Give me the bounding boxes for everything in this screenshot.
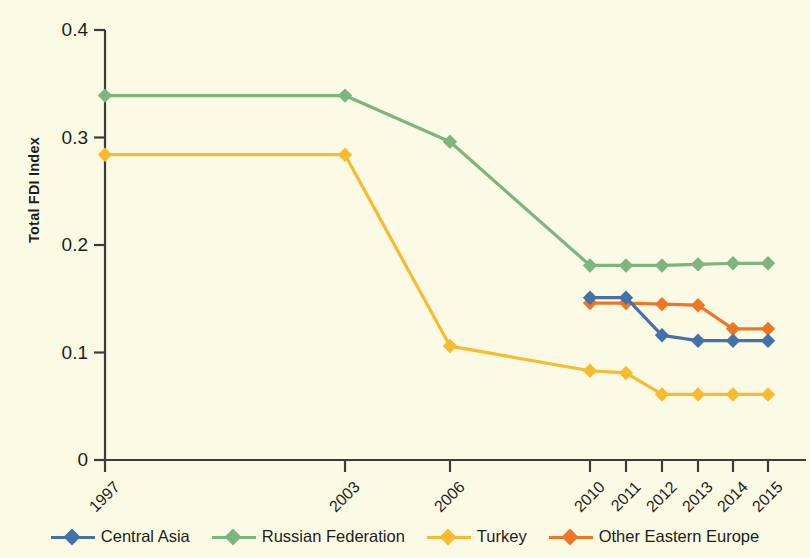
series-line	[105, 155, 768, 395]
legend-item-russian-federation[interactable]: Russian Federation	[212, 527, 405, 546]
series-line	[590, 303, 768, 329]
data-point-marker	[655, 297, 669, 311]
data-point-marker	[726, 256, 740, 270]
legend-item-label: Russian Federation	[262, 527, 405, 546]
legend-item-label: Turkey	[477, 527, 527, 546]
plot-area	[0, 0, 810, 558]
data-point-marker	[761, 333, 775, 347]
fdi-index-line-chart: Total FDI Index 00.10.20.30.4 1997200320…	[0, 0, 810, 558]
data-point-marker	[691, 257, 705, 271]
data-point-marker	[443, 339, 457, 353]
data-point-marker	[619, 258, 633, 272]
series-turkey	[98, 148, 775, 402]
legend-marker-icon	[427, 528, 471, 546]
legend-item-turkey[interactable]: Turkey	[427, 527, 527, 546]
legend-diamond-icon	[439, 529, 456, 546]
data-point-marker	[761, 387, 775, 401]
data-point-marker	[691, 333, 705, 347]
series-central-asia	[583, 290, 775, 347]
data-point-marker	[98, 148, 112, 162]
legend-marker-icon	[549, 528, 593, 546]
series-other-eastern-europe	[583, 296, 775, 336]
series-russian-federation	[98, 88, 775, 272]
data-point-marker	[691, 387, 705, 401]
legend-diamond-icon	[561, 529, 578, 546]
data-point-marker	[619, 366, 633, 380]
data-point-marker	[98, 88, 112, 102]
series-line	[105, 96, 768, 266]
chart-legend: Central AsiaRussian FederationTurkeyOthe…	[0, 527, 810, 546]
data-point-marker	[761, 256, 775, 270]
legend-diamond-icon	[224, 529, 241, 546]
data-point-marker	[338, 88, 352, 102]
legend-item-other-eastern-europe[interactable]: Other Eastern Europe	[549, 527, 760, 546]
data-point-marker	[338, 148, 352, 162]
legend-item-central-asia[interactable]: Central Asia	[51, 527, 190, 546]
data-point-marker	[583, 364, 597, 378]
legend-item-label: Other Eastern Europe	[599, 527, 760, 546]
legend-marker-icon	[212, 528, 256, 546]
data-point-marker	[655, 387, 669, 401]
legend-marker-icon	[51, 528, 95, 546]
legend-diamond-icon	[63, 529, 80, 546]
data-point-marker	[726, 387, 740, 401]
legend-item-label: Central Asia	[101, 527, 190, 546]
data-point-marker	[655, 258, 669, 272]
data-point-marker	[726, 333, 740, 347]
